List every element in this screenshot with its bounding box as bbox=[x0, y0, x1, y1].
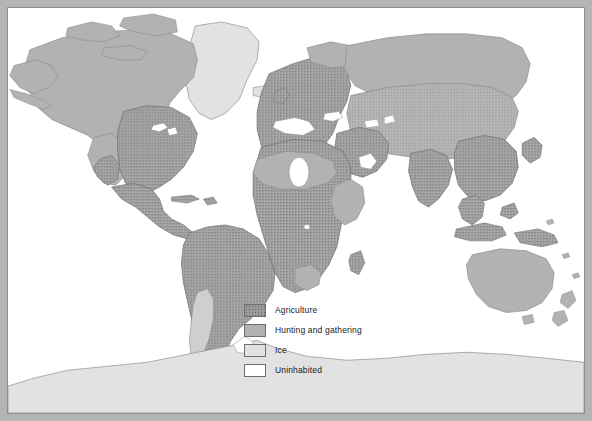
legend-label-hunting: Hunting and gathering bbox=[275, 326, 362, 335]
legend-item-hunting: Hunting and gathering bbox=[244, 320, 424, 340]
legend-label-uninhabited: Uninhabited bbox=[275, 366, 322, 375]
legend-label-ice: Ice bbox=[275, 346, 287, 355]
legend-item-ice: Ice bbox=[244, 340, 424, 360]
legend-swatch-ice bbox=[244, 344, 266, 357]
legend-swatch-uninhabited bbox=[244, 364, 266, 377]
legend-item-agriculture: Agriculture bbox=[244, 300, 424, 320]
map-legend: Agriculture Hunting and gathering Ice Un… bbox=[244, 300, 424, 380]
legend-label-agriculture: Agriculture bbox=[275, 306, 317, 315]
picture-frame: Agriculture Hunting and gathering Ice Un… bbox=[0, 0, 592, 421]
legend-item-uninhabited: Uninhabited bbox=[244, 360, 424, 380]
legend-swatch-hunting bbox=[244, 324, 266, 337]
map-frame-inner: Agriculture Hunting and gathering Ice Un… bbox=[7, 7, 585, 414]
legend-swatch-agriculture bbox=[244, 304, 266, 317]
